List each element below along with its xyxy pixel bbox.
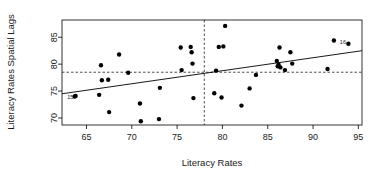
data-point	[239, 103, 243, 107]
data-point	[332, 38, 336, 42]
data-point-label: 15	[67, 94, 73, 100]
x-tick-label: 85	[263, 132, 273, 142]
data-point	[219, 95, 223, 99]
x-tick-label: 75	[172, 132, 182, 142]
data-point	[346, 41, 350, 45]
data-point	[100, 78, 104, 82]
data-point	[117, 52, 121, 56]
scatterplot-canvas: 70758085 65707580859095 1516 Literacy Ra…	[0, 0, 380, 175]
data-point	[157, 117, 161, 121]
data-point	[212, 91, 216, 95]
x-tick-label: 80	[217, 132, 227, 142]
y-tick-label: 85	[49, 32, 59, 42]
data-point	[107, 110, 111, 114]
data-point	[223, 24, 227, 28]
data-point	[275, 59, 279, 63]
y-axis-title: Literacy Rates Spatial Lags	[5, 14, 16, 130]
data-point	[99, 63, 103, 67]
data-point	[278, 65, 282, 69]
data-point	[254, 73, 258, 77]
data-point	[214, 68, 218, 72]
data-point	[106, 78, 110, 82]
data-point	[158, 86, 162, 90]
data-point	[325, 67, 329, 71]
data-point	[189, 45, 193, 49]
x-tick-label: 65	[81, 132, 91, 142]
y-tick-label: 80	[49, 59, 59, 69]
data-point	[191, 96, 195, 100]
moran-scatterplot: 70758085 65707580859095 1516 Literacy Ra…	[0, 0, 380, 175]
x-tick-label: 95	[353, 132, 363, 142]
data-point	[290, 61, 294, 65]
data-point	[138, 101, 142, 105]
data-point	[221, 44, 225, 48]
data-point	[97, 93, 101, 97]
y-tick-label: 70	[49, 113, 59, 123]
data-point	[179, 45, 183, 49]
data-point	[288, 50, 292, 54]
data-point	[247, 86, 251, 90]
data-point	[73, 94, 77, 98]
data-point	[190, 61, 194, 65]
x-tick-label: 70	[127, 132, 137, 142]
data-point	[189, 50, 193, 54]
data-point-label: 16	[340, 39, 346, 45]
data-point	[179, 68, 183, 72]
data-point	[277, 45, 281, 49]
data-point	[217, 45, 221, 49]
data-point	[126, 71, 130, 75]
x-axis-title: Literacy Rates	[182, 157, 243, 168]
x-tick-label: 90	[308, 132, 318, 142]
y-tick-label: 75	[49, 86, 59, 96]
data-point	[139, 119, 143, 123]
data-point	[283, 68, 287, 72]
